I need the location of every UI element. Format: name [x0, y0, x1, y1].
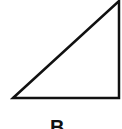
figure-label: B [50, 117, 64, 129]
right-triangle [13, 1, 119, 98]
triangle-figure [0, 0, 122, 129]
